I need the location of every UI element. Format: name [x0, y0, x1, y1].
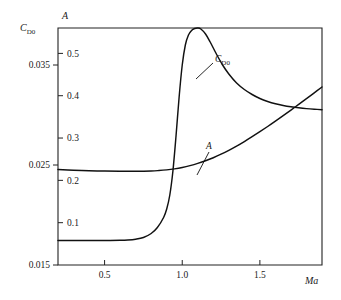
left-axis-tick-label: 0.015 [29, 260, 51, 270]
inner-axis-tick-label: 0.5 [67, 49, 79, 59]
chart-container: 0.0150.0250.035 0.10.20.30.40.5 0.51.01.… [0, 0, 341, 300]
left-axis-ticks [53, 65, 58, 265]
annotation-label-a: A [205, 141, 212, 151]
series-line-a [58, 87, 322, 171]
x-axis-tick-label: 1.5 [254, 270, 266, 280]
series-line-cd0 [58, 28, 322, 241]
x-axis-tick-labels: 0.51.01.5 [99, 270, 266, 280]
y-axis-title-left: CD0 [20, 22, 36, 36]
left-axis-tick-label: 0.025 [29, 160, 51, 170]
y-axis-title-left-sub: D0 [27, 28, 36, 36]
x-axis-tick-label: 1.0 [176, 270, 188, 280]
y-axis-title-inner: A [61, 10, 69, 21]
inner-axis-tick-label: 0.2 [67, 176, 79, 186]
x-axis-tick-label: 0.5 [99, 270, 111, 280]
inner-axis-tick-label: 0.1 [67, 218, 79, 228]
chart-svg: 0.0150.0250.035 0.10.20.30.40.5 0.51.01.… [0, 0, 341, 300]
inner-axis-ticks [58, 53, 63, 222]
inner-axis-tick-labels: 0.10.20.30.40.5 [67, 49, 79, 228]
x-axis-title: Ma [304, 275, 318, 286]
inner-axis-tick-label: 0.3 [67, 133, 79, 143]
x-axis-ticks [105, 260, 260, 265]
annotation-label-cd0: CD0 [215, 54, 230, 67]
left-axis-tick-label: 0.035 [29, 60, 51, 70]
annotation-label-cd0-sub: D0 [221, 59, 230, 67]
annotation-leader-cd0 [196, 63, 213, 79]
left-axis-tick-labels: 0.0150.0250.035 [29, 60, 51, 270]
inner-axis-tick-label: 0.4 [67, 91, 79, 101]
plot-frame [58, 28, 322, 265]
